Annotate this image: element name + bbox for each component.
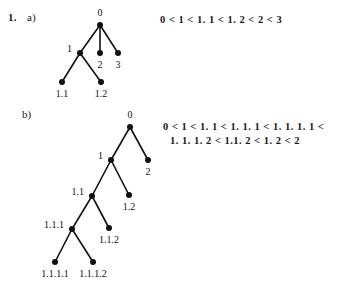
tree-node-1.1 (89, 193, 95, 199)
tree-node-1.1.2 (106, 225, 112, 231)
tree-edge (92, 196, 109, 228)
tree-node-1.1.1.2 (90, 259, 96, 265)
tree-edge (111, 127, 130, 160)
tree-node-1.1.1 (69, 226, 75, 232)
tree-node-label-1.1.2: 1.1.2 (99, 234, 119, 245)
tree-node-1.1.1.1 (52, 259, 58, 265)
tree-node-label-0: 0 (128, 109, 133, 120)
tree-edge (92, 160, 111, 196)
exercise-page: 1. a) b) 0 < 1 < 1. 1 < 1. 2 < 2 < 3 0 <… (0, 0, 360, 297)
tree-node-1.2 (126, 192, 132, 198)
tree-edge (130, 127, 148, 160)
tree-node-label-1: 1 (98, 150, 103, 161)
tree-node-label-1.1.1.1: 1.1.1.1 (41, 268, 69, 279)
tree-edge (72, 229, 93, 262)
tree-node-1 (108, 157, 114, 163)
tree-node-2 (145, 157, 151, 163)
tree-edge (111, 160, 129, 195)
tree-edge (72, 196, 92, 229)
tree-edge (55, 229, 72, 262)
tree-diagram-b: 0121.11.21.1.11.1.21.1.1.11.1.1.2 (0, 0, 360, 297)
tree-node-label-1.1: 1.1 (72, 186, 85, 197)
tree-node-label-1.1.1: 1.1.1 (44, 219, 64, 230)
tree-node-0 (127, 124, 133, 130)
tree-node-label-2: 2 (146, 166, 151, 177)
tree-node-label-1.1.1.2: 1.1.1.2 (79, 268, 107, 279)
tree-node-label-1.2: 1.2 (123, 201, 136, 212)
